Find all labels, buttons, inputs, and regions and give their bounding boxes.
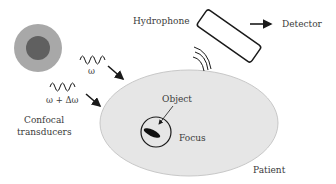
omega-delta-label: ω + Δω — [46, 95, 79, 105]
wave-omega-icon — [80, 56, 105, 64]
focus-label: Focus — [179, 133, 206, 143]
transducer-icon — [14, 24, 62, 72]
object-label: Object — [162, 94, 192, 104]
confocal-label-line1: Confocal — [24, 115, 64, 125]
patient-label: Patient — [253, 165, 286, 175]
omega-label: ω — [88, 66, 95, 76]
arrow-icon — [86, 94, 100, 106]
detector-label: Detector — [282, 19, 323, 29]
wave-omega-delta-icon — [50, 83, 75, 91]
confocal-label-line2: transducers — [17, 127, 72, 137]
arrow-icon — [108, 66, 123, 79]
hydrophone-label: Hydrophone — [133, 16, 190, 26]
patient-body — [100, 70, 278, 176]
sound-waves-icon — [193, 47, 211, 71]
vibro-acoustography-diagram: ω ω + Δω Confocal transducers Hydrophone… — [0, 0, 336, 184]
